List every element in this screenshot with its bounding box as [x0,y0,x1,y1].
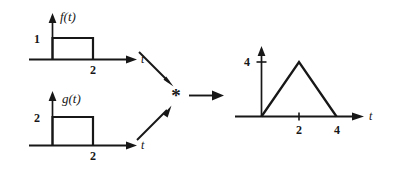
plot-result-y-tick-label: 4 [244,55,250,69]
plot-f-function-label: f(t) [60,9,76,24]
plot-result-x-tick-label-4: 4 [334,123,340,137]
plot-g-x-axis-label: t [141,138,145,152]
plot-f-x-tick-label: 2 [90,63,96,77]
plot-g-pulse [53,117,94,146]
plot-g: g(t) 2 2 t [29,91,145,163]
plot-result-x-axis-label: t [369,109,373,123]
plot-result-x-tick-label-2: 2 [296,123,302,137]
plot-result: 4 2 4 t [235,46,373,137]
plot-g-x-tick-label: 2 [90,149,96,163]
plot-g-function-label: g(t) [62,91,81,106]
plot-g-y-tick-label: 2 [34,111,40,125]
plot-result-y-axis [258,46,266,117]
connector-arrow-from-g [137,106,172,141]
plot-f-pulse [53,38,94,60]
plot-f: f(t) 1 2 t [29,9,145,77]
connector-arrow-to-result [189,91,224,101]
plot-result-triangle [262,62,337,117]
plot-g-x-axis [29,142,137,150]
plot-f-x-axis [29,56,137,64]
plot-f-y-tick-label: 1 [34,32,40,46]
convolution-figure: f(t) 1 2 t g(t) 2 2 t [0,0,396,182]
connector-arrow-from-f [139,52,174,87]
figure-canvas: f(t) 1 2 t g(t) 2 2 t [0,0,396,182]
convolution-operator-symbol: * [171,85,181,106]
